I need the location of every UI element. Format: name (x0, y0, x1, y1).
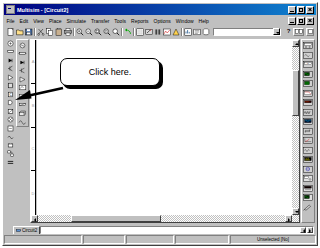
wattmeter-icon[interactable]: W (303, 60, 314, 69)
status-panel-3 (126, 235, 174, 244)
dynamic-measurement-probe-icon[interactable] (303, 203, 314, 212)
printer-icon[interactable] (63, 27, 72, 36)
vertical-scroll-thumb[interactable] (292, 70, 299, 116)
virtual-signal-icon[interactable] (17, 118, 28, 126)
menu-item-reports[interactable]: Reports (129, 17, 152, 25)
status-selection-info: Unselected [No] (230, 235, 316, 244)
place-rf-icon[interactable] (6, 133, 14, 141)
magnifier-plus-icon[interactable] (75, 27, 84, 36)
scroll-up-button[interactable] (292, 40, 299, 47)
menu-item-file[interactable]: File (4, 17, 17, 25)
menu-item-edit[interactable]: Edit (17, 17, 31, 25)
run-switch-icon[interactable] (144, 27, 153, 36)
ruler-label-d: D (31, 171, 35, 215)
help-button[interactable]: ? (284, 27, 293, 36)
place-indicator-icon[interactable] (6, 116, 14, 124)
undo-arrow-icon[interactable] (123, 27, 132, 36)
agilent-multimeter-icon[interactable] (303, 184, 314, 193)
function-generator-icon[interactable] (303, 51, 314, 60)
place-misc-icon[interactable] (6, 124, 14, 132)
horizontal-scroll-thumb[interactable] (71, 215, 161, 222)
distortion-analyzer-icon[interactable] (303, 146, 314, 155)
horizontal-scrollbar[interactable] (31, 215, 299, 222)
circuit-tab-icon (16, 228, 21, 233)
virtual-3d-icon[interactable] (17, 109, 28, 117)
status-message (4, 235, 82, 244)
copy-icon[interactable] (45, 27, 54, 36)
scroll-left-button[interactable] (31, 215, 38, 222)
mdi-restore-button[interactable] (297, 17, 305, 25)
network-analyzer-icon[interactable] (303, 165, 314, 174)
new-document-icon[interactable] (6, 27, 15, 36)
place-basic-icon[interactable] (6, 48, 14, 56)
scissors-icon[interactable] (36, 27, 45, 36)
magnifier-full-icon[interactable] (111, 27, 120, 36)
spectrum-analyzer-icon[interactable] (303, 155, 314, 164)
grid-icon[interactable] (135, 27, 144, 36)
place-electromech-icon[interactable] (6, 141, 14, 149)
place-hierarchical-icon[interactable] (6, 150, 14, 158)
postprocessor-icon[interactable] (171, 27, 180, 36)
tab-label: Circuit2 (22, 228, 37, 233)
iv-analyzer-icon[interactable] (303, 136, 314, 145)
analysis-icon[interactable] (183, 27, 192, 36)
magnifier-area-icon[interactable] (93, 27, 102, 36)
place-bus-icon[interactable] (6, 158, 14, 166)
place-mixed-icon[interactable] (6, 107, 14, 115)
virtual-source-icon[interactable] (17, 41, 28, 49)
grapher-icon[interactable] (162, 27, 171, 36)
svg-text:W: W (307, 62, 309, 64)
mdi-close-button[interactable] (306, 17, 314, 25)
oscilloscope-icon[interactable] (303, 70, 314, 79)
logic-analyzer-icon[interactable] (303, 117, 314, 126)
menu-item-view[interactable]: View (31, 17, 47, 25)
callout-balloon: Click here. (60, 58, 160, 86)
agilent-function-generator-icon[interactable] (303, 174, 314, 183)
status-panel-2 (83, 235, 125, 244)
mdi-child-controls (288, 17, 316, 25)
open-folder-icon[interactable] (15, 27, 24, 36)
multimeter-icon[interactable] (303, 41, 314, 50)
minimize-button[interactable] (288, 6, 296, 14)
frequency-counter-icon[interactable] (303, 98, 314, 107)
save-disk-icon[interactable] (24, 27, 33, 36)
maximize-button[interactable] (297, 6, 305, 14)
clipboard-icon[interactable] (54, 27, 63, 36)
menu-item-simulate[interactable]: Simulate (64, 17, 88, 25)
component-search-combo[interactable] (213, 28, 281, 36)
in-use-list-icon[interactable] (192, 27, 201, 36)
menu-item-place[interactable]: Place (46, 17, 64, 25)
database-icon[interactable] (201, 27, 210, 36)
place-source-icon[interactable] (6, 39, 14, 47)
four-channel-oscilloscope-icon[interactable] (303, 79, 314, 88)
menu-item-options[interactable]: Options (151, 17, 173, 25)
tab-prev-button[interactable] (300, 227, 306, 233)
chevron-down-icon[interactable] (273, 28, 280, 35)
agilent-oscilloscope-icon[interactable] (303, 193, 314, 202)
word-generator-icon[interactable] (303, 108, 314, 117)
magnifier-minus-icon[interactable] (84, 27, 93, 36)
menu-bar: File Edit View Place Simulate Transfer T… (4, 16, 316, 25)
bode-plotter-icon[interactable] (303, 89, 314, 98)
application-window: Multisim - [Circuit2] File Edit View Pla… (2, 2, 318, 246)
menu-item-help[interactable]: Help (196, 17, 211, 25)
menu-item-window[interactable]: Window (173, 17, 196, 25)
callout-text: Click here. (89, 67, 132, 77)
context-help-icon[interactable] (306, 28, 314, 36)
tab-circuit2[interactable]: Circuit2 (13, 226, 40, 234)
logic-converter-icon[interactable] (303, 127, 314, 136)
virtual-basic-icon[interactable] (17, 50, 28, 58)
scroll-down-button[interactable] (292, 208, 299, 215)
magnifier-fit-icon[interactable] (102, 27, 111, 36)
vertical-scrollbar[interactable] (292, 40, 299, 215)
scroll-right-button[interactable] (285, 215, 292, 222)
tab-next-button[interactable] (307, 227, 313, 233)
menu-item-tools[interactable]: Tools (112, 17, 129, 25)
close-button[interactable] (306, 6, 314, 14)
menu-item-transfer[interactable]: Transfer (88, 17, 111, 25)
status-panel-4 (175, 235, 229, 244)
mdi-minimize-button[interactable] (288, 17, 296, 25)
document-tab-strip: Circuit2 (13, 226, 314, 234)
pause-icon[interactable] (153, 27, 162, 36)
component-browser-icon[interactable] (293, 28, 304, 36)
